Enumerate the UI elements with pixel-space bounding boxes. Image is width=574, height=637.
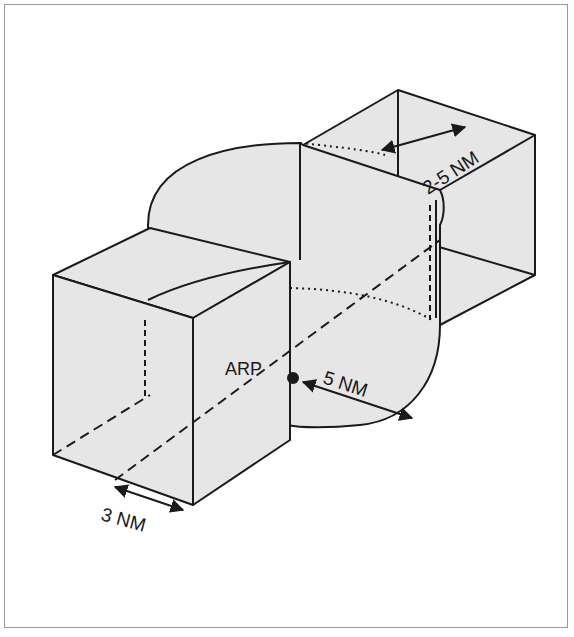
airspace-diagram: ARP 5 NM 2-5 NM 3 NM bbox=[0, 0, 574, 637]
arp-point-icon bbox=[287, 372, 299, 384]
extension-width-label: 3 NM bbox=[99, 504, 148, 536]
arp-label: ARP bbox=[225, 359, 262, 379]
